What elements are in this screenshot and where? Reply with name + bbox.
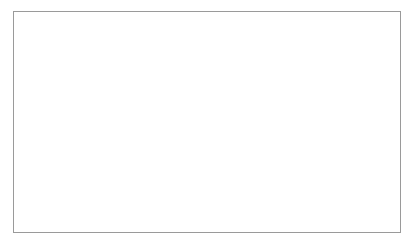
chart-frame-border — [13, 11, 401, 233]
chart-container: 0.00.51.01.52.02.53.03.5 201020122014201… — [0, 0, 417, 248]
